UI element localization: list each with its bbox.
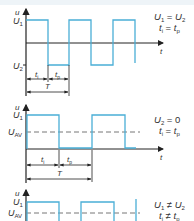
graph3-condition-time: ti ≠ tp: [159, 210, 180, 221]
graph2-UAV-label: UAV: [8, 127, 22, 138]
graph3-UAV-label: UAV: [8, 208, 22, 219]
graph1-condition-time: ti = tp: [159, 22, 180, 34]
graph2-U1-label: U1: [13, 110, 24, 121]
graph3-U1-label: U1: [13, 197, 24, 208]
graph1-tp-label: tp: [55, 70, 60, 80]
graph1-T-label: T: [45, 82, 51, 91]
square-wave-diagrams: u U1 U2 t U1 = U2 ti = tp ti tp T u U1 U…: [0, 0, 194, 221]
graph-3: u U1 UAV U1 ≠ U2 ti ≠ tp: [8, 189, 186, 221]
graph-1: u U1 U2 t U1 = U2 ti = tp ti tp T: [13, 8, 186, 96]
graph3-signal: [27, 202, 59, 221]
graph1-ti-label: ti: [35, 70, 38, 80]
graph1-x-axis-label: t: [160, 47, 163, 56]
graph1-U1-label: U1: [13, 16, 24, 27]
graph2-condition-time: ti = tp: [159, 125, 180, 137]
graph-2: u U1 UAV t U2 = 0 ti = tp ti tp T: [8, 103, 180, 183]
graph2-T-label: T: [57, 169, 63, 178]
graph1-U2-label: U2: [13, 61, 24, 72]
graph3-signal-pulse2: [81, 202, 114, 221]
graph2-ti-label: ti: [41, 155, 44, 165]
graph2-x-axis-label: t: [160, 153, 163, 162]
graph2-tp-label: tp: [67, 155, 72, 165]
